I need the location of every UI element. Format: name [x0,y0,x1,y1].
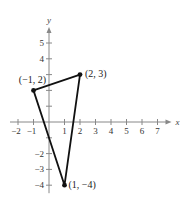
x-axis-arrow [166,120,172,125]
x-tick-label: −2 [11,126,21,136]
x-tick-label: 2 [78,126,83,136]
y-axis-arrow [47,27,52,33]
x-tick-label: 6 [140,126,145,136]
x-tick-label: 7 [155,126,160,136]
vertex-point [78,72,83,77]
x-axis-label: x [175,117,180,127]
x-tick-label: 3 [93,126,98,136]
x-tick-label: 5 [124,126,129,136]
x-tick-label: −1 [27,126,37,136]
y-tick-label: 4 [40,54,45,64]
y-axis-label: y [46,15,51,25]
y-tick-label: −4 [34,180,44,190]
vertex-label: (1, −4) [69,179,96,191]
y-tick-label: 5 [40,38,45,48]
tick-labels: −2−11234567−4−3−245 [11,38,160,190]
vertex-point [62,183,67,188]
x-tick-label: 1 [62,126,67,136]
triangle-plot: −2−11234567−4−3−245 (−1, 2)(2, 3)(1, −4)… [0,0,187,202]
y-tick-label: −2 [34,149,44,159]
y-tick-label: −3 [34,164,44,174]
vertex-label: (−1, 2) [19,74,46,86]
vertex-point [31,88,36,93]
x-tick-label: 4 [109,126,114,136]
vertex-label: (2, 3) [85,68,107,80]
